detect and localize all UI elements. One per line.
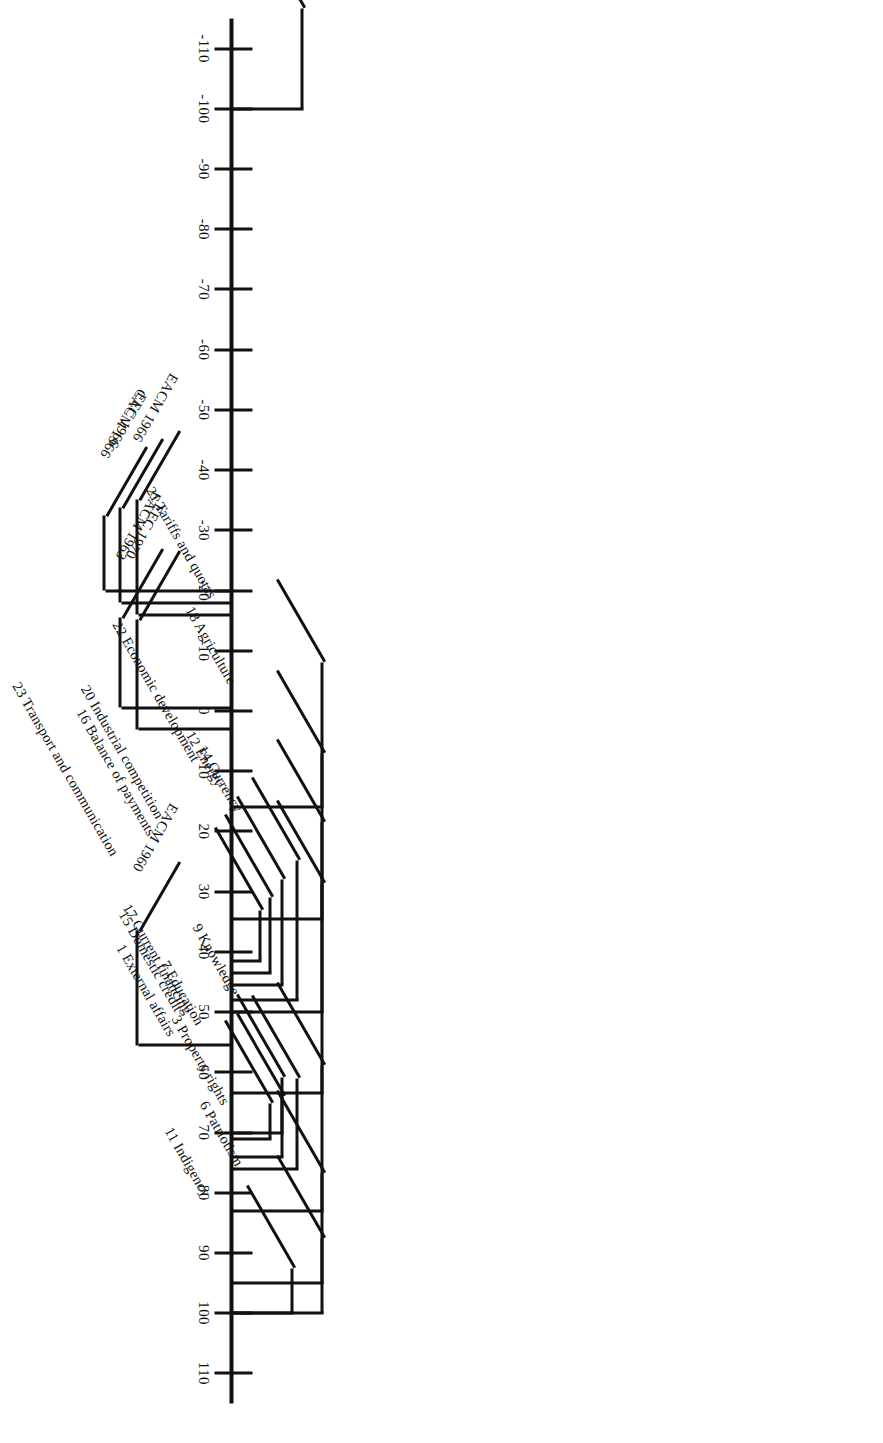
callout-connector	[231, 1155, 283, 1158]
callout-label: 3 Property rights	[168, 1012, 233, 1108]
axis-tick-label: 100	[194, 1301, 211, 1325]
axis-tick	[214, 1371, 252, 1374]
axis-tick	[214, 47, 252, 50]
callout-connector	[231, 107, 303, 110]
callout-leader-line	[135, 499, 138, 614]
callout-leader-line	[135, 930, 138, 1045]
callout-connector	[231, 1131, 283, 1134]
callout-leader-line	[280, 879, 283, 984]
axis-tick	[214, 1070, 252, 1073]
axis-tick-label: 90	[194, 1245, 211, 1261]
callout-connector	[231, 998, 298, 1001]
callout-connector	[231, 1167, 298, 1170]
scale-diagram-stage: 1101009080706050403020100-10-20-30-40-50…	[0, 0, 883, 1443]
axis-tick	[214, 890, 252, 893]
callout-connector	[231, 1091, 323, 1094]
callout-connector	[231, 959, 261, 962]
callout-elbow	[138, 549, 181, 620]
callout-elbow	[256, 0, 306, 8]
axis-tick-label: -110	[194, 34, 211, 63]
axis-tick	[214, 287, 252, 290]
axis-tick-label: -70	[194, 278, 211, 299]
callout-leader-line	[295, 860, 298, 1000]
callout-connector	[121, 601, 231, 604]
callout-elbow	[276, 669, 326, 753]
callout-leader-line	[280, 1077, 283, 1132]
callout-connector	[231, 971, 271, 974]
axis-tick	[214, 348, 252, 351]
callout-connector	[231, 983, 283, 986]
callout-elbow	[276, 578, 326, 662]
axis-tick-label: 110	[194, 1361, 211, 1384]
callout-leader-line	[118, 617, 121, 707]
axis-tick	[214, 1251, 252, 1254]
callout-leader-line	[290, 1268, 293, 1313]
axis-tick-label: -80	[194, 218, 211, 239]
callout-connector	[231, 1281, 323, 1284]
axis-tick	[214, 1191, 252, 1194]
figure-page: 1101009080706050403020100-10-20-30-40-50…	[0, 0, 883, 1443]
callout-connector	[231, 1137, 271, 1140]
axis-tick-label: -100	[194, 94, 211, 123]
callout-connector	[231, 1010, 323, 1013]
callout-connector	[231, 1209, 323, 1212]
callout-leader-line	[268, 897, 271, 972]
axis-tick-label: 30	[194, 883, 211, 899]
axis-tick	[214, 468, 252, 471]
callout-connector	[105, 589, 231, 592]
axis-tick	[214, 528, 252, 531]
callout-connector	[121, 706, 231, 709]
callout-connector	[231, 1311, 293, 1314]
axis-tick-label: -50	[194, 399, 211, 420]
callout-connector	[138, 727, 231, 730]
axis-tick-label: -60	[194, 339, 211, 360]
axis-tick-label: -30	[194, 519, 211, 540]
callout-connector	[231, 917, 323, 920]
callout-elbow	[246, 1184, 296, 1268]
axis-tick-label: -90	[194, 158, 211, 179]
callout-leader-line	[320, 662, 323, 807]
axis-tick	[214, 227, 252, 230]
axis-tick-label: -40	[194, 459, 211, 480]
callout-connector	[138, 1043, 231, 1046]
axis-tick	[214, 408, 252, 411]
callout-elbow	[251, 776, 301, 860]
axis-tick	[214, 167, 252, 170]
callout-leader-line	[102, 515, 105, 590]
callout-connector	[138, 613, 231, 616]
callout-leader-line	[118, 507, 121, 602]
callout-leader-line	[300, 8, 303, 108]
axis-tick-label: 20	[194, 823, 211, 839]
callout-leader-line	[135, 619, 138, 729]
callout-connector	[231, 805, 323, 808]
